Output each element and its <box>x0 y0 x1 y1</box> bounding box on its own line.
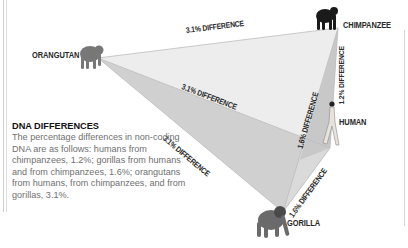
edge-label-chimpanzee-human: 1.2% DIFFERENCE <box>337 46 346 104</box>
dna-differences-info: DNA DIFFERENCES The percentage differenc… <box>12 121 192 202</box>
label-chimpanzee: CHIMPANZEE <box>343 20 391 30</box>
chimpanzee-icon <box>316 7 338 30</box>
label-human: HUMAN <box>339 117 366 127</box>
gorilla-icon <box>257 206 290 238</box>
label-gorilla: GORILLA <box>287 218 320 228</box>
info-body: The percentage differences in non-coding… <box>12 132 192 202</box>
info-title: DNA DIFFERENCES <box>12 121 192 132</box>
label-orangutan: ORANGUTAN <box>32 50 79 60</box>
orangutan-icon <box>80 46 104 70</box>
